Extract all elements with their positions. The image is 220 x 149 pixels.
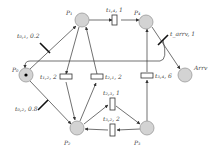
place-label-p2: P₂ xyxy=(63,139,71,146)
arc-t21-p1 xyxy=(86,27,97,74)
transition-t34: t₃,₄, 6 xyxy=(141,72,172,79)
place-label-p3: P₃ xyxy=(133,139,141,146)
transition-label-tarrv: t_arrv, 1 xyxy=(170,30,195,38)
petri-net-diagram: P₀ P₁ P₂ P₃ P₄ Arrv t₀,₁, 0.2 t₀,₂, 0.8 … xyxy=(0,0,220,149)
place-p1: P₁ xyxy=(65,9,89,27)
transition-label-t32: t₃,₂, 2 xyxy=(103,115,120,122)
transition-t02: t₀,₂, 0.8 xyxy=(15,100,48,112)
transition-label-t01: t₀,₁, 0.2 xyxy=(17,32,40,39)
arc-p1-t12 xyxy=(66,27,79,74)
arc-p2-t21 xyxy=(80,83,96,121)
transition-label-t14: t₁,₄, 1 xyxy=(106,6,123,13)
arc-t32-p2 xyxy=(85,129,108,130)
transition-label-t34: t₃,₄, 6 xyxy=(155,72,172,79)
transition-t21: t₂,₁, 2 xyxy=(91,73,122,80)
place-label-p0: P₀ xyxy=(11,66,19,73)
transition-t32: t₃,₂, 2 xyxy=(103,115,120,136)
place-p2: P₂ xyxy=(63,121,84,146)
arc-p0-p2 xyxy=(30,81,71,124)
place-p3: P₃ xyxy=(133,121,154,146)
token-icon xyxy=(24,73,27,76)
transition-label-t23: t₂,₃, 1 xyxy=(103,89,120,96)
transition-label-t02: t₀,₂, 0.8 xyxy=(15,105,38,112)
transition-t14: t₁,₄, 1 xyxy=(106,6,123,25)
place-arrv: Arrv xyxy=(178,64,208,82)
place-p4: P₄ xyxy=(133,9,153,29)
transition-t12: t₁,₂, 2 xyxy=(40,73,72,80)
place-label-p1: P₁ xyxy=(65,9,72,16)
transition-label-t21: t₂,₁, 2 xyxy=(105,73,122,80)
arc-p3-t32 xyxy=(117,129,140,130)
place-label-p4: P₄ xyxy=(133,9,141,16)
arc-t12-p2 xyxy=(66,82,75,120)
place-p0: P₀ xyxy=(11,66,33,82)
transition-t01: t₀,₁, 0.2 xyxy=(17,32,50,53)
transition-label-t12: t₁,₂, 2 xyxy=(40,73,57,80)
place-label-arrv: Arrv xyxy=(193,64,208,71)
